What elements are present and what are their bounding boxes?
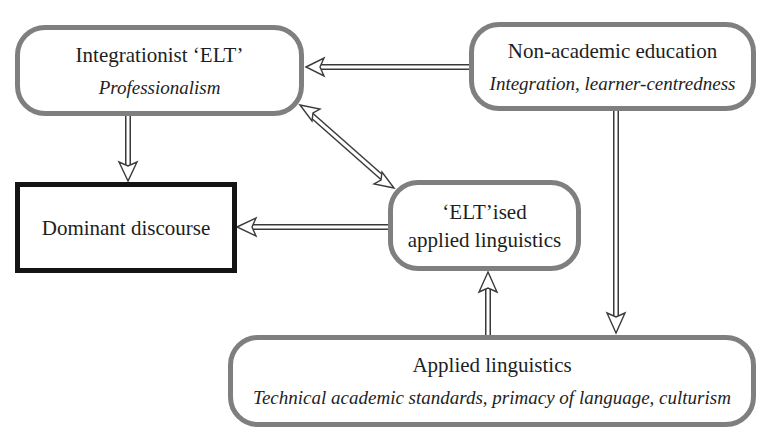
- node-eltised-applied-linguistics: ‘ELT’ised applied linguistics: [388, 180, 581, 271]
- arrow-eltised-to-dominant: [237, 218, 388, 236]
- node-subtitle: Technical academic standards, primacy of…: [253, 385, 731, 411]
- node-title: Non-academic education: [508, 37, 717, 65]
- arrow-integrationist-eltised-bidirectional: [300, 105, 394, 188]
- arrow-appliedlinguistics-to-eltised: [479, 272, 497, 336]
- node-subtitle: Integration, learner-centredness: [490, 71, 736, 97]
- node-title-line2: applied linguistics: [408, 226, 561, 254]
- node-integrationist-elt: Integrationist ‘ELT’ Professionalism: [15, 25, 304, 116]
- arrow-nonacademic-to-integrationist: [306, 58, 470, 76]
- node-dominant-discourse: Dominant discourse: [15, 182, 237, 273]
- node-title: Applied linguistics: [412, 351, 571, 379]
- arrow-integrationist-to-dominant: [119, 116, 137, 181]
- arrow-nonacademic-to-appliedlinguistics: [607, 111, 625, 333]
- node-non-academic-education: Non-academic education Integration, lear…: [469, 22, 756, 111]
- node-title-line1: ‘ELT’ised: [442, 198, 526, 226]
- node-applied-linguistics: Applied linguistics Technical academic s…: [228, 335, 756, 427]
- node-title: Dominant discourse: [42, 214, 211, 242]
- node-subtitle: Professionalism: [99, 75, 221, 101]
- node-title: Integrationist ‘ELT’: [76, 41, 244, 69]
